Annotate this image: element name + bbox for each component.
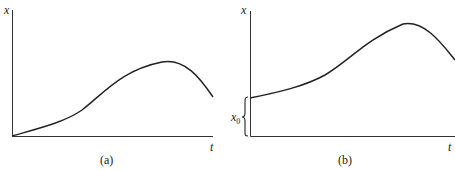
x0-label-subscript: 0 <box>236 117 240 126</box>
panel-a-y-label: x <box>4 4 9 16</box>
panel-a-x-label: t <box>210 141 213 153</box>
panel-b-caption: (b) <box>338 154 352 166</box>
x0-brace-icon <box>242 97 248 136</box>
panel-a-curve <box>12 61 213 136</box>
x0-label: x0 <box>231 111 240 123</box>
panel-b-y-label: x <box>241 4 246 16</box>
panel-b-curve <box>250 24 455 98</box>
diagram-canvas <box>0 0 455 170</box>
panel-b-x-label: t <box>448 141 451 153</box>
panel-a-caption: (a) <box>100 154 113 166</box>
